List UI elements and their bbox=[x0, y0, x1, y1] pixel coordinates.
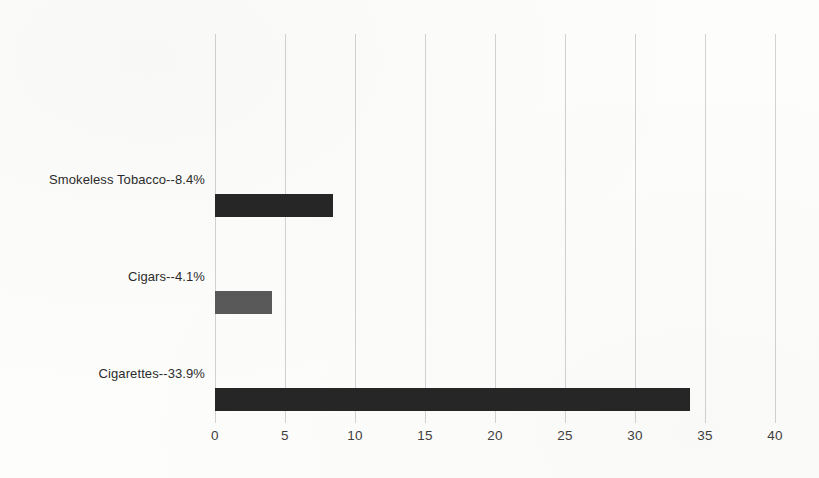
x-tick-label-5: 5 bbox=[265, 428, 305, 443]
gridline-15 bbox=[425, 34, 426, 423]
bar-smokeless-tobacco[interactable] bbox=[215, 194, 333, 217]
gridline-5 bbox=[285, 34, 286, 423]
category-label-smokeless-tobacco: Smokeless Tobacco--8.4% bbox=[49, 172, 205, 187]
category-label-cigars: Cigars--4.1% bbox=[128, 269, 205, 284]
bar-cigarettes[interactable] bbox=[215, 388, 690, 411]
gridline-25 bbox=[565, 34, 566, 423]
x-tick-label-15: 15 bbox=[405, 428, 445, 443]
gridline-35 bbox=[705, 34, 706, 423]
x-tick-label-0: 0 bbox=[195, 428, 235, 443]
bar-cigars[interactable] bbox=[215, 291, 272, 314]
x-tick-label-35: 35 bbox=[685, 428, 725, 443]
category-label-cigarettes: Cigarettes--33.9% bbox=[99, 366, 205, 381]
x-tick-label-20: 20 bbox=[475, 428, 515, 443]
x-tick-label-30: 30 bbox=[615, 428, 655, 443]
gridline-10 bbox=[355, 34, 356, 423]
gridline-0 bbox=[215, 34, 216, 423]
x-tick-label-40: 40 bbox=[755, 428, 795, 443]
plot-area bbox=[215, 34, 775, 423]
gridline-40 bbox=[775, 34, 776, 423]
bar-chart: 0510152025303540 Cigarettes--33.9%Cigars… bbox=[0, 0, 819, 478]
gridline-20 bbox=[495, 34, 496, 423]
x-tick-label-10: 10 bbox=[335, 428, 375, 443]
x-tick-label-25: 25 bbox=[545, 428, 585, 443]
gridline-30 bbox=[635, 34, 636, 423]
